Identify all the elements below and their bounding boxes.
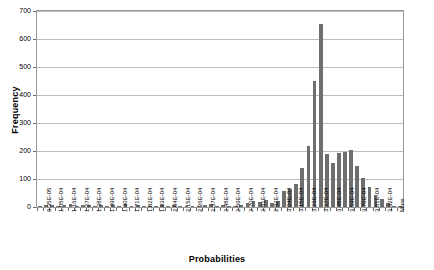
x-tick-mark (385, 208, 386, 211)
x-tick-mark (153, 208, 154, 211)
x-tick-mark (80, 208, 81, 211)
x-tick-label: 3.26E-04 (311, 188, 317, 212)
bar (203, 205, 207, 207)
bar (331, 163, 335, 207)
x-tick-label: 1.16E-04 (71, 188, 77, 212)
bar (130, 206, 134, 207)
x-tick-mark (116, 208, 117, 211)
x-tick-label: 3.04E-04 (286, 188, 292, 212)
bar (154, 206, 158, 207)
y-tick-label: 100 (0, 175, 31, 182)
bar (355, 166, 359, 207)
x-tick-label: 3.15E-04 (298, 188, 304, 212)
y-tick-label: 500 (0, 63, 31, 70)
x-tick-label: 2.37E-04 (210, 188, 216, 212)
x-tick-label: 2.15E-04 (185, 188, 191, 212)
bar (191, 206, 195, 207)
bar (117, 206, 121, 207)
x-tick-label: 3.37E-04 (323, 188, 329, 212)
x-tick-label: 1.38E-04 (96, 188, 102, 212)
x-tick-label: 1.82E-04 (147, 188, 153, 212)
x-tick-mark (165, 208, 166, 211)
x-tick-label: 1.05E-04 (58, 188, 64, 212)
x-tick-label: 1.49E-04 (109, 188, 115, 212)
bar (166, 206, 170, 207)
y-tick-label: 600 (0, 35, 31, 42)
x-tick-mark (92, 208, 93, 211)
bar (178, 206, 182, 207)
x-tick-label: 2.04E-04 (172, 188, 178, 212)
x-tick-mark (104, 208, 105, 211)
x-tick-mark (141, 208, 142, 211)
x-tick-mark (293, 208, 294, 211)
x-tick-label: 3.48E-04 (336, 188, 342, 212)
x-tick-label: 9.35E-05 (46, 188, 52, 212)
bar (319, 24, 323, 207)
bar (368, 187, 372, 207)
bar (307, 146, 311, 207)
x-axis-labels: 9.35E-051.05E-041.16E-041.27E-041.38E-04… (37, 212, 403, 252)
x-tick-mark (397, 208, 398, 211)
bar (38, 206, 42, 207)
bar (380, 199, 384, 207)
y-tick-label: 200 (0, 147, 31, 154)
x-axis-title: Probabilities (0, 254, 434, 264)
x-tick-label: 2.48E-04 (223, 188, 229, 212)
bar (142, 206, 146, 207)
x-tick-label: 2.81E-04 (260, 188, 266, 212)
x-tick-label: 2.59E-04 (235, 188, 241, 212)
x-tick-mark (129, 208, 130, 211)
bar-series (37, 11, 403, 207)
x-tick-mark (37, 208, 38, 211)
x-tick-label: 2.70E-04 (248, 188, 254, 212)
x-tick-label: 3.70E-04 (361, 188, 367, 212)
x-tick-mark (232, 208, 233, 211)
x-tick-label: 1.93E-04 (159, 188, 165, 212)
x-tick-mark (208, 208, 209, 211)
x-tick-label: 3.59E-04 (349, 188, 355, 212)
y-tick-label: 300 (0, 119, 31, 126)
x-tick-label: 1.71E-04 (134, 188, 140, 212)
y-tick-label: 700 (0, 7, 31, 14)
x-tick-label: 2.26E-04 (197, 188, 203, 212)
x-tick-mark (220, 208, 221, 211)
x-tick-label: More (399, 198, 405, 212)
x-tick-label: 1.27E-04 (84, 188, 90, 212)
x-tick-mark (183, 208, 184, 211)
x-tick-mark (318, 208, 319, 211)
x-tick-mark (305, 208, 306, 211)
x-tick-mark (330, 208, 331, 211)
x-tick-mark (281, 208, 282, 211)
x-tick-label: 1.60E-04 (122, 188, 128, 212)
histogram-chart: Frequency 0100200300400500600700 9.35E-0… (0, 0, 434, 270)
bar (343, 152, 347, 207)
y-tick-label: 0 (0, 203, 31, 210)
x-tick-mark (244, 208, 245, 211)
x-tick-label: 3.92E-04 (387, 188, 393, 212)
x-tick-label: 2.92E-04 (273, 188, 279, 212)
x-tick-mark (257, 208, 258, 211)
x-tick-mark (269, 208, 270, 211)
x-tick-mark (68, 208, 69, 211)
y-tick-label: 400 (0, 91, 31, 98)
x-tick-mark (43, 208, 44, 211)
bar-slot (397, 11, 403, 207)
x-tick-mark (342, 208, 343, 211)
x-tick-label: 3.81E-04 (374, 188, 380, 212)
x-tick-mark (55, 208, 56, 211)
